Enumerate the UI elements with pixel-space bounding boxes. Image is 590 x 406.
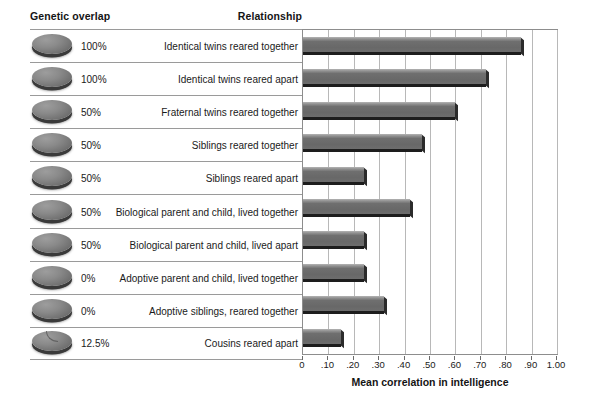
relationship-label: Cousins reared apart <box>205 338 298 349</box>
bar-track <box>303 160 557 192</box>
bar <box>303 134 422 149</box>
column-header-relationship: Relationship <box>238 10 302 22</box>
genetic-disc-icon <box>32 34 74 58</box>
table-row: 50%Siblings reared apart <box>30 161 302 194</box>
genetic-disc-icon <box>32 67 74 91</box>
genetic-overlap-value: 12.5% <box>81 338 109 349</box>
genetic-overlap-chart: Genetic overlap Relationship 100%Identic… <box>0 0 590 406</box>
x-axis-tick-labels: 0.10.20.30.40.50.60.70.80.901.00 <box>302 359 558 373</box>
x-axis-tick-label: .60 <box>448 359 461 370</box>
relationship-label: Identical twins reared together <box>164 41 298 52</box>
column-header-genetic-overlap: Genetic overlap <box>30 10 110 22</box>
bar-end-cap <box>521 38 524 57</box>
genetic-overlap-value: 0% <box>81 305 95 316</box>
bar-track <box>303 62 557 94</box>
bar-end-cap <box>364 167 367 186</box>
relationship-label: Adoptive siblings, reared together <box>149 305 298 316</box>
table-row: 50%Fraternal twins reared together <box>30 95 302 128</box>
disc-shape <box>32 200 72 220</box>
table-row: 0%Adoptive siblings, reared together <box>30 294 302 327</box>
x-axis-tick-label: .70 <box>473 359 486 370</box>
bar-end-cap <box>364 232 367 251</box>
disc-shape <box>32 166 72 186</box>
table-row: 50%Biological parent and child, lived ap… <box>30 228 302 261</box>
bar <box>303 199 410 214</box>
x-axis-title: Mean correlation in intelligence <box>302 376 558 388</box>
bar <box>303 167 364 182</box>
genetic-overlap-value: 100% <box>81 41 107 52</box>
genetic-disc-icon <box>32 133 74 157</box>
disc-shape <box>32 233 72 253</box>
genetic-overlap-value: 100% <box>81 74 107 85</box>
genetic-overlap-value: 50% <box>81 140 101 151</box>
bar <box>303 264 364 279</box>
relationship-label: Biological parent and child, lived toget… <box>116 206 298 217</box>
bar-end-cap <box>422 135 425 154</box>
disc-shape <box>32 331 72 351</box>
table-row: 0%Adoptive parent and child, lived toget… <box>30 261 302 294</box>
table-row: 50%Biological parent and child, lived to… <box>30 194 302 227</box>
bar-end-cap <box>455 103 458 122</box>
relationship-label: Adoptive parent and child, lived togethe… <box>120 272 298 283</box>
bar-end-cap <box>410 200 413 219</box>
disc-shape <box>32 34 72 54</box>
table-row: 100%Identical twins reared apart <box>30 62 302 95</box>
genetic-disc-icon <box>32 299 74 323</box>
x-axis-tick-label: .10 <box>321 359 334 370</box>
relationship-label: Biological parent and child, lived apart <box>130 239 298 250</box>
bar-end-cap <box>384 297 387 316</box>
bar <box>303 329 341 344</box>
plot-area <box>302 29 558 355</box>
genetic-overlap-value: 50% <box>81 173 101 184</box>
x-axis-tick-label: 0 <box>299 359 304 370</box>
genetic-overlap-value: 0% <box>81 272 95 283</box>
x-axis-tick-label: .30 <box>372 359 385 370</box>
bar <box>303 69 486 84</box>
genetic-disc-icon <box>32 100 74 124</box>
genetic-disc-icon <box>32 200 74 224</box>
relationship-table: 100%Identical twins reared together100%I… <box>30 29 302 360</box>
x-axis-tick-label: .40 <box>397 359 410 370</box>
relationship-label: Siblings reared apart <box>206 173 298 184</box>
genetic-disc-icon <box>32 166 74 190</box>
genetic-disc-icon <box>32 266 74 290</box>
bar <box>303 231 364 246</box>
bar-end-cap <box>341 329 344 348</box>
bar-track <box>303 192 557 224</box>
bar <box>303 37 521 52</box>
gridline <box>557 30 558 354</box>
bar-track <box>303 257 557 289</box>
table-row: 12.5%Cousins reared apart <box>30 327 302 360</box>
bar-track <box>303 289 557 321</box>
x-axis-tick-label: .50 <box>422 359 435 370</box>
genetic-overlap-value: 50% <box>81 239 101 250</box>
bar-track <box>303 127 557 159</box>
disc-shape <box>32 266 72 286</box>
relationship-label: Fraternal twins reared together <box>161 107 298 118</box>
table-row: 50%Siblings reared together <box>30 128 302 161</box>
bar-track <box>303 95 557 127</box>
disc-shape <box>32 67 72 87</box>
bar-track <box>303 30 557 62</box>
disc-shape <box>32 133 72 153</box>
table-row: 100%Identical twins reared together <box>30 29 302 62</box>
x-axis-tick-label: 1.00 <box>547 359 566 370</box>
x-axis-tick-label: .20 <box>346 359 359 370</box>
relationship-label: Siblings reared together <box>192 140 298 151</box>
bar <box>303 296 384 311</box>
disc-shape <box>32 100 72 120</box>
bar-track <box>303 322 557 354</box>
x-axis-tick-label: .80 <box>499 359 512 370</box>
x-axis-tick-label: .90 <box>524 359 537 370</box>
relationship-label: Identical twins reared apart <box>178 74 298 85</box>
table-header: Genetic overlap Relationship <box>30 10 302 28</box>
genetic-overlap-value: 50% <box>81 206 101 217</box>
disc-shape <box>32 299 72 319</box>
bar-end-cap <box>486 70 489 89</box>
bar-end-cap <box>364 265 367 284</box>
genetic-disc-icon <box>32 233 74 257</box>
genetic-overlap-value: 50% <box>81 107 101 118</box>
genetic-disc-wedge-icon <box>32 331 74 355</box>
bar <box>303 102 455 117</box>
bar-track <box>303 224 557 256</box>
